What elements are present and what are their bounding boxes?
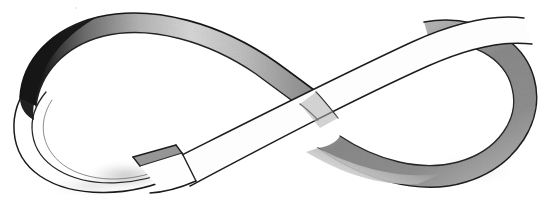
mobius-ribbon-drawing [0, 0, 545, 203]
stray-dot-top-left [75, 7, 77, 9]
stray-dot-upper [267, 54, 269, 56]
sketch-artboard: Infinity Ribbon (Mobius Strip) Pencil Sk… [0, 0, 545, 203]
